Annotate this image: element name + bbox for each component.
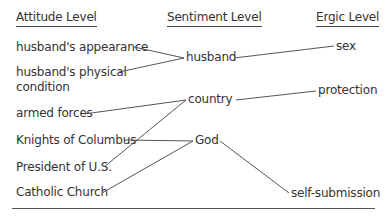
connector-lines [0, 0, 386, 222]
link-catholic-god [102, 141, 193, 193]
link-appearance-husband [134, 47, 184, 58]
link-husband-sex [234, 46, 334, 58]
link-physical-husband [119, 58, 184, 72]
link-god-self-submission [220, 141, 289, 193]
link-knights-god [124, 140, 193, 141]
bottom-rule [12, 208, 375, 209]
link-country-protection [236, 91, 316, 100]
